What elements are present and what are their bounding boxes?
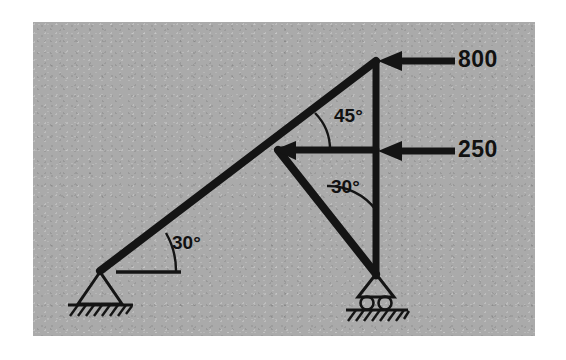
truss-members [100, 61, 376, 276]
figure-root: 800 250 45° 30° 30° [0, 0, 566, 360]
load-arrow-800 [378, 51, 455, 71]
pin-support-hatching [70, 305, 132, 316]
pin-support-triangle [78, 272, 122, 304]
angle-label-base: 30° [172, 232, 201, 254]
angle-label-web: 30° [331, 176, 360, 198]
roller-support-hatching [348, 310, 409, 321]
pin-support [68, 272, 133, 316]
load-arrow-250 [378, 141, 455, 161]
angle-arc-45 [315, 113, 330, 150]
load-arrow-250-head [378, 141, 402, 161]
load-label-250: 250 [458, 136, 498, 163]
angle-label-apex: 45° [334, 105, 363, 127]
load-arrow-800-head [378, 51, 402, 71]
load-label-800: 800 [458, 46, 498, 73]
roller-support [346, 274, 409, 321]
member-lower-diagonal [278, 150, 376, 274]
member-long-diagonal [100, 61, 376, 271]
